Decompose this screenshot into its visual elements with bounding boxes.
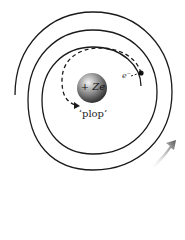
electron-label: e⁻ [122, 71, 131, 80]
nucleus-label: + Ze [80, 81, 106, 92]
plop-caption: ‘plop’ [78, 108, 108, 119]
rotation-arrow-icon [150, 140, 176, 171]
electron-dot [138, 70, 143, 75]
